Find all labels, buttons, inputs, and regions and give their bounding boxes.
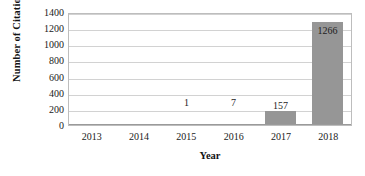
y-axis-tick-labels: 1400120010008006004002000 <box>30 13 64 126</box>
x-axis-tick-label: 2016 <box>210 130 257 144</box>
x-axis-tick-label: 2015 <box>163 130 210 144</box>
bar-value-label: 157 <box>273 100 288 111</box>
bar-chart: Number of Citations 14001200100080060040… <box>0 0 365 176</box>
x-axis-tick-label: 2017 <box>257 130 304 144</box>
bar-slot: 157 <box>257 14 304 124</box>
y-axis-tick-label: 1200 <box>30 24 64 34</box>
bar: 1266 <box>312 22 343 124</box>
bar-slot <box>116 14 163 124</box>
x-axis-title: Year <box>68 150 352 161</box>
y-axis-tick-label: 400 <box>30 89 64 99</box>
y-axis-tick-label: 0 <box>30 121 64 131</box>
bar-slot <box>69 14 116 124</box>
x-axis-tick-label: 2014 <box>115 130 162 144</box>
bar-value-label: 7 <box>231 97 236 108</box>
bar-slot: 7 <box>210 14 257 124</box>
y-axis-tick-label: 1000 <box>30 40 64 50</box>
x-axis-tick-label: 2018 <box>305 130 352 144</box>
plot-area: 171571266 <box>68 13 352 126</box>
y-axis-tick-label: 800 <box>30 56 64 66</box>
y-axis-title: Number of Citations <box>11 0 29 95</box>
bar: 157 <box>265 111 296 124</box>
x-axis-baseline <box>69 124 351 125</box>
y-axis-tick-label: 1400 <box>30 8 64 18</box>
x-axis-tick-labels: 201320142015201620172018 <box>68 130 352 144</box>
y-axis-tick-label: 200 <box>30 105 64 115</box>
y-axis-tick-label: 600 <box>30 73 64 83</box>
bar-series: 171571266 <box>69 14 351 124</box>
bar-slot: 1 <box>163 14 210 124</box>
bar-value-label: 1 <box>184 97 189 108</box>
bar-slot: 1266 <box>304 14 351 124</box>
x-axis-tick-label: 2013 <box>68 130 115 144</box>
bar-value-label: 1266 <box>317 25 337 36</box>
